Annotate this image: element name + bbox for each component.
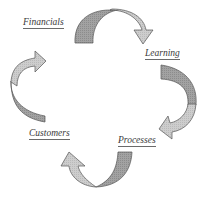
node-label-customers: Customers (29, 128, 70, 140)
node-label-learning: Learning (145, 48, 180, 60)
node-label-processes: Processes (118, 135, 156, 147)
arrow-customers-to-financials-icon (11, 51, 46, 122)
arrows-layer (0, 0, 205, 197)
cycle-diagram: Financials Learning Processes Customers (0, 0, 205, 197)
arrow-processes-to-customers-icon (61, 152, 132, 187)
arrow-financials-to-learning-icon (75, 9, 153, 44)
node-label-financials: Financials (23, 17, 64, 29)
arrow-learning-to-processes-icon (159, 65, 196, 139)
